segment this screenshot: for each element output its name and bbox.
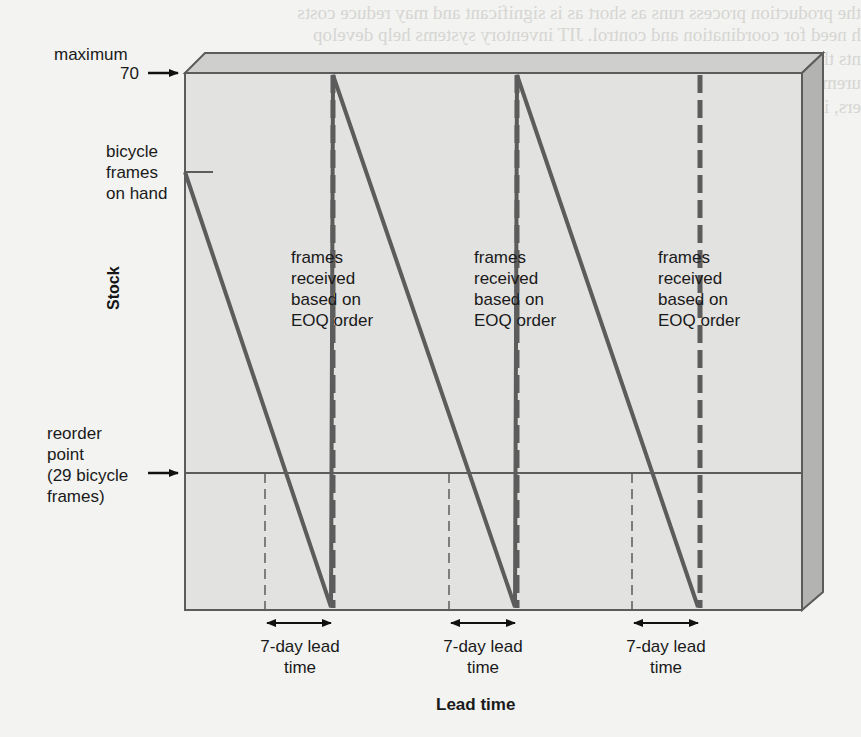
lead-time-label: 7-day lead time: [611, 636, 721, 678]
box-side-face: [802, 53, 823, 610]
y-axis-label: Stock: [105, 266, 123, 310]
x-axis-label: Lead time: [436, 694, 515, 715]
inventory-diagram: [0, 0, 861, 737]
reorder-point-label: reorder point (29 bicycle frames): [47, 423, 128, 507]
on-hand-label: bicycle frames on hand: [106, 141, 167, 204]
box-top-face: [185, 53, 823, 73]
received-label: frames received based on EOQ order: [658, 247, 740, 331]
lead-time-label: 7-day lead time: [428, 636, 538, 678]
received-label: frames received based on EOQ order: [474, 247, 556, 331]
received-label: frames received based on EOQ order: [291, 247, 373, 331]
maximum-value: 70: [120, 63, 139, 84]
box-front-face: [185, 73, 802, 610]
lead-time-label: 7-day lead time: [245, 636, 355, 678]
maximum-label: maximum: [54, 44, 128, 65]
